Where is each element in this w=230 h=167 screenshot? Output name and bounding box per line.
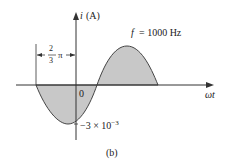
x-axis-label: ωt xyxy=(205,90,215,100)
frequency-value: = 1000 Hz xyxy=(139,28,181,38)
x-axis-arrow-icon xyxy=(206,82,214,88)
frequency-variable: f xyxy=(131,28,134,38)
peak-value-mantissa: −3 × 10 xyxy=(80,120,111,131)
origin-label: 0 xyxy=(79,89,84,99)
phase-denominator: 3 xyxy=(49,57,53,65)
figure-caption: (b) xyxy=(106,148,118,158)
phase-arrow-left-icon xyxy=(37,53,42,57)
y-axis-label-unit: (A) xyxy=(86,11,100,21)
peak-value-label: −3 × 10−3 xyxy=(80,120,119,131)
sine-wave-diagram xyxy=(0,0,230,167)
phase-numerator: 2 xyxy=(49,45,53,53)
y-axis-arrow-icon xyxy=(73,12,79,20)
phase-arrow-right-icon xyxy=(70,53,75,57)
phase-pi: π xyxy=(58,51,63,60)
y-axis-label-variable: i xyxy=(80,11,83,21)
peak-value-exponent: −3 xyxy=(111,119,118,127)
